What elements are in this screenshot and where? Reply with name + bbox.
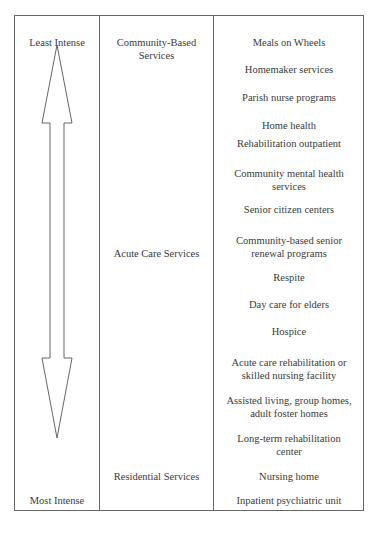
category-residential: Residential Services — [100, 470, 213, 483]
service-item: Day care for elders — [214, 298, 364, 311]
service-item: Long-term rehabilitation center — [214, 432, 364, 458]
service-item: Acute care rehabilitation or skilled nur… — [214, 356, 364, 382]
category-community-based: Community-Based Services — [100, 36, 213, 62]
category-acute-care: Acute Care Services — [100, 247, 213, 260]
most-intense-label: Most Intense — [15, 494, 99, 507]
service-item: Home health — [214, 119, 364, 132]
service-item: Meals on Wheels — [214, 36, 364, 49]
service-item: Hospice — [214, 325, 364, 338]
service-item: Respite — [214, 271, 364, 284]
service-item: Community-based senior renewal programs — [214, 234, 364, 260]
service-item: Inpatient psychiatric unit — [214, 494, 364, 507]
service-item: Homemaker services — [214, 63, 364, 76]
service-item: Community mental health services — [214, 167, 364, 193]
service-item: Nursing home — [214, 470, 364, 483]
service-item: Parish nurse programs — [214, 91, 364, 104]
service-item: Assisted living, group homes, adult fost… — [214, 394, 364, 420]
service-item: Rehabilitation outpatient — [214, 137, 364, 150]
service-item: Senior citizen centers — [214, 203, 364, 216]
